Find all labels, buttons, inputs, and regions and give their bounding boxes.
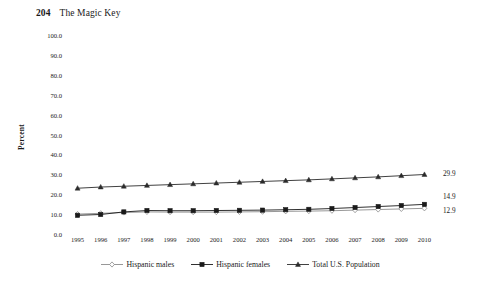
data-point-marker <box>99 212 103 216</box>
y-axis-tick-labels: 0.010.020.030.040.050.060.070.080.090.01… <box>30 24 62 250</box>
end-value-label: 12.9 <box>443 207 456 215</box>
legend-marker-filled-triangle <box>287 260 309 269</box>
y-axis-tick: 30.0 <box>50 171 62 178</box>
y-axis-title: Percent <box>17 138 26 150</box>
y-axis-tick: 20.0 <box>50 191 62 198</box>
data-point-marker <box>376 204 380 208</box>
page-number: 204 <box>36 8 51 18</box>
data-point-marker <box>284 208 288 212</box>
page: 204The Magic Key Percent 0.010.020.030.0… <box>0 0 481 294</box>
y-axis-tick: 70.0 <box>50 91 62 98</box>
data-point-marker <box>214 208 218 212</box>
x-axis-tick: 2003 <box>256 236 269 243</box>
y-axis-tick: 40.0 <box>50 151 62 158</box>
data-point-marker <box>110 262 115 267</box>
x-axis-tick: 2002 <box>233 236 246 243</box>
x-axis-tick: 2006 <box>325 236 338 243</box>
legend-item-3[interactable]: Total U.S. Population <box>287 260 379 269</box>
data-point-marker <box>307 207 311 211</box>
line-chart-figure: Percent 0.010.020.030.040.050.060.070.08… <box>0 24 481 294</box>
y-axis-tick: 90.0 <box>50 51 62 58</box>
x-axis-tick-labels: 1995199619971998199920002001200220032004… <box>66 236 436 252</box>
data-point-marker <box>200 262 204 266</box>
series-line <box>78 174 425 188</box>
x-axis-tick: 2005 <box>302 236 315 243</box>
end-value-label: 29.9 <box>443 170 456 178</box>
y-axis-tick: 50.0 <box>50 131 62 138</box>
legend-item-1[interactable]: Hispanic males <box>101 260 174 269</box>
y-axis-tick: 0.0 <box>54 231 62 238</box>
x-axis-tick: 2007 <box>348 236 361 243</box>
series-3 <box>75 172 427 190</box>
series-canvas <box>66 24 436 236</box>
legend-item-2[interactable]: Hispanic females <box>191 260 270 269</box>
data-point-marker <box>399 203 403 207</box>
x-axis-tick: 2001 <box>210 236 223 243</box>
legend-label: Total U.S. Population <box>312 260 379 269</box>
x-axis-tick: 1996 <box>94 236 107 243</box>
x-axis-tick: 2008 <box>372 236 385 243</box>
data-point-marker <box>145 208 149 212</box>
plot-area <box>66 24 436 234</box>
legend-label: Hispanic males <box>126 260 174 269</box>
data-point-marker <box>191 209 195 213</box>
book-title: The Magic Key <box>60 8 121 18</box>
y-axis-tick: 100.0 <box>47 32 62 39</box>
data-point-marker <box>260 208 264 212</box>
y-axis-tick: 10.0 <box>50 211 62 218</box>
x-axis-tick: 2000 <box>187 236 200 243</box>
legend-label: Hispanic females <box>216 260 270 269</box>
data-point-marker <box>237 208 241 212</box>
x-axis-tick: 1998 <box>140 236 153 243</box>
data-point-marker <box>330 206 334 210</box>
chart-legend: Hispanic malesHispanic femalesTotal U.S.… <box>0 260 481 269</box>
data-point-marker <box>168 209 172 213</box>
x-axis-tick: 2009 <box>395 236 408 243</box>
legend-marker-filled-square <box>191 260 213 269</box>
data-point-marker <box>422 202 426 206</box>
x-axis-tick: 2004 <box>279 236 292 243</box>
x-axis-tick: 2010 <box>418 236 431 243</box>
x-axis-tick: 1995 <box>71 236 84 243</box>
data-point-marker <box>122 210 126 214</box>
data-point-marker <box>353 205 357 209</box>
running-head: 204The Magic Key <box>36 8 120 18</box>
x-axis-tick: 1997 <box>117 236 130 243</box>
x-axis-tick: 1999 <box>163 236 176 243</box>
end-value-label: 14.9 <box>443 193 456 201</box>
y-axis-tick: 60.0 <box>50 111 62 118</box>
y-axis-tick: 80.0 <box>50 71 62 78</box>
legend-marker-open-diamond <box>101 260 123 269</box>
data-point-marker <box>75 213 79 217</box>
